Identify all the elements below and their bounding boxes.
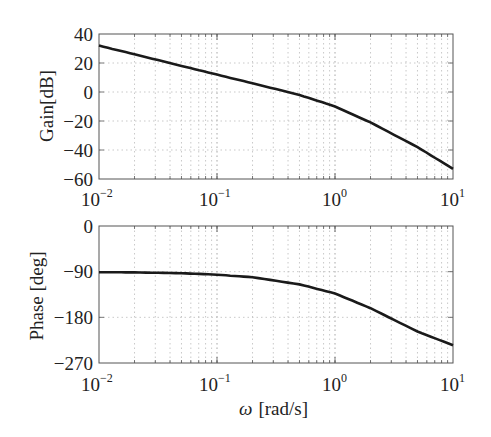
phase-curve: [99, 272, 453, 345]
phase-frame: [99, 226, 453, 363]
phase-ytick-label: −90: [63, 261, 93, 282]
gain-ytick-label: −20: [63, 111, 93, 132]
phase-xtick-label: 101: [440, 371, 465, 395]
gain-xtick-label: 100: [322, 186, 347, 210]
phase-axes: 0 −90 −180 −270 10−2 10−1 100 101 Phase …: [26, 216, 465, 419]
gain-tick-marks: [99, 34, 453, 179]
gain-xtick-label: 10−1: [199, 186, 231, 210]
phase-ytick-label: −180: [54, 307, 93, 328]
phase-ytick-label: −270: [54, 353, 93, 374]
phase-xtick-label: 100: [322, 371, 347, 395]
phase-xtick-label: 10−1: [199, 371, 231, 395]
phase-ytick-label: 0: [84, 216, 94, 237]
gain-ytick-label: 20: [74, 53, 93, 74]
gain-axes: 40 20 0 −20 −40 −60 10−2 10−1 100 101 Ga…: [36, 24, 465, 210]
phase-xtick-label: 10−2: [81, 371, 113, 395]
gain-ylabel: Gain[dB]: [36, 70, 57, 142]
gain-ytick-label: −40: [63, 140, 93, 161]
phase-ylabel: Phase [deg]: [26, 251, 47, 340]
gain-ytick-label: 0: [84, 82, 94, 103]
gain-ytick-label: 40: [74, 24, 93, 45]
gain-xtick-label: 10−2: [81, 186, 113, 210]
gain-frame: [99, 34, 453, 179]
phase-grid: [99, 226, 453, 363]
gain-grid: [99, 34, 453, 179]
phase-xlabel: ω[rad/s]: [239, 398, 308, 419]
gain-xtick-label: 101: [440, 186, 465, 210]
gain-ytick-label: −60: [63, 169, 93, 190]
bode-plot: 40 20 0 −20 −40 −60 10−2 10−1 100 101 Ga…: [0, 0, 491, 437]
phase-tick-marks: [99, 226, 453, 363]
